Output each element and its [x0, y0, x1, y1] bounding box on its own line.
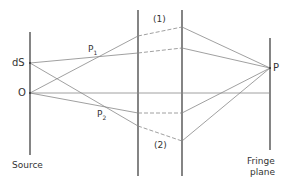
label-ds: dS [12, 58, 25, 68]
ray-o-path1 [30, 36, 138, 93]
label-p1: P1 [88, 44, 97, 55]
ray-ds-path1-out [182, 48, 270, 68]
label-path2: (2) [154, 140, 167, 150]
label-fringe-line1: Fringe [247, 156, 275, 166]
ray-o-path1-slab [138, 27, 182, 36]
label-o: O [18, 88, 26, 98]
ray-o-path2-out [182, 68, 270, 113]
ray-o-path2 [30, 93, 138, 113]
ray-ds-path2 [30, 63, 138, 126]
point-p [269, 67, 271, 69]
ray-ds-path1 [30, 53, 138, 63]
label-p: P [273, 63, 279, 73]
label-p1-sub: 1 [93, 49, 97, 56]
point-o [29, 92, 31, 94]
label-path1: (1) [153, 14, 166, 24]
ray-ds-path2-slab [138, 126, 182, 141]
label-p2-sub: 2 [102, 114, 106, 121]
point-ds [29, 62, 31, 64]
label-p2: P2 [97, 109, 106, 120]
ray-ds-path1-slab [138, 48, 182, 53]
ray-ds-path2-out [182, 68, 270, 141]
ray-o-path1-out [182, 27, 270, 68]
label-fringe-line2: plane [250, 167, 275, 177]
label-source: Source [12, 160, 43, 170]
